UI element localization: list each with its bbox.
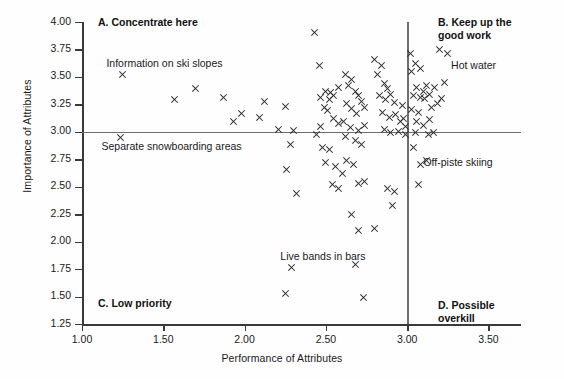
data-point-marker: [390, 187, 399, 196]
y-tick: 3.75: [75, 49, 82, 50]
data-point-marker: [338, 169, 347, 178]
data-point-marker: [421, 94, 430, 103]
data-point-marker: [440, 78, 449, 87]
data-point-marker: [409, 143, 418, 152]
data-point-marker: [346, 123, 355, 132]
data-point-marker: [409, 91, 418, 100]
data-point-marker: [282, 165, 291, 174]
data-point-marker: [191, 84, 200, 93]
data-point-marker: [377, 61, 386, 70]
y-tick: 3.00: [75, 132, 82, 133]
data-point-marker: [341, 70, 350, 79]
data-point-marker: [281, 102, 290, 111]
y-tick-label: 1.75: [51, 262, 71, 274]
data-point-marker: [339, 117, 348, 126]
data-point-marker: [352, 109, 361, 118]
data-point-marker: [354, 91, 363, 100]
data-point-marker: [401, 122, 410, 131]
data-point-marker: [343, 156, 352, 165]
data-point-marker: [373, 70, 382, 79]
data-point-marker: [118, 70, 127, 79]
y-tick-label: 2.25: [51, 207, 71, 219]
data-point-marker: [390, 98, 399, 107]
data-point-marker: [383, 184, 392, 193]
data-point-marker: [370, 55, 379, 64]
data-point-marker: [391, 110, 400, 119]
data-point-marker: [229, 117, 238, 126]
data-point-marker: [347, 210, 356, 219]
y-tick: 2.75: [75, 159, 82, 160]
data-point-marker: [320, 103, 329, 112]
data-point-marker: [416, 93, 425, 102]
y-tick-label: 2.00: [51, 234, 71, 246]
y-tick: 3.25: [75, 104, 82, 105]
data-point-marker: [219, 93, 228, 102]
data-point-marker: [419, 121, 428, 130]
data-point-marker: [321, 87, 330, 96]
data-point-marker: [330, 91, 339, 100]
x-tick-label: 3.00: [397, 333, 417, 345]
data-point-marker: [351, 87, 360, 96]
data-point-marker: [419, 87, 428, 96]
y-tick: 1.50: [75, 297, 82, 298]
data-point-marker: [408, 67, 417, 76]
y-tick: 4.00: [75, 22, 82, 23]
y-tick-label: 4.00: [51, 15, 71, 27]
x-tick-label: 1.00: [72, 333, 92, 345]
data-point-marker: [354, 226, 363, 235]
horizontal-divider-line: [82, 132, 521, 134]
data-point-marker: [260, 97, 269, 106]
data-point-marker: [360, 121, 369, 130]
data-point-marker: [315, 61, 324, 70]
data-point-marker: [326, 88, 335, 97]
data-point-marker: [437, 94, 446, 103]
data-point-marker: [317, 122, 326, 131]
data-point-marker: [412, 83, 421, 92]
y-tick-label: 2.75: [51, 152, 71, 164]
x-tick-label: 3.50: [478, 333, 498, 345]
annotation-label: Hot water: [451, 59, 496, 71]
data-point-marker: [414, 180, 423, 189]
data-point-marker: [347, 75, 356, 84]
data-point-marker: [425, 115, 434, 124]
data-point-marker: [388, 201, 397, 210]
quadrant-label-c: C. Low priority: [98, 297, 172, 310]
data-point-marker: [347, 104, 356, 113]
data-point-marker: [412, 117, 421, 126]
data-point-marker: [411, 59, 420, 68]
data-point-marker: [385, 113, 394, 122]
data-point-marker: [357, 97, 366, 106]
data-point-marker: [414, 108, 423, 117]
data-point-marker: [360, 177, 369, 186]
y-tick: 3.50: [75, 77, 82, 78]
data-point-marker: [310, 28, 319, 37]
data-point-marker: [344, 81, 353, 90]
x-tick: [488, 324, 489, 331]
data-point-marker: [334, 184, 343, 193]
y-tick: 1.75: [75, 269, 82, 270]
data-point-marker: [334, 83, 343, 92]
data-point-marker: [170, 95, 179, 104]
y-axis-line: [82, 22, 84, 324]
data-point-marker: [359, 293, 368, 302]
annotation-label: Information on ski slopes: [106, 57, 222, 69]
data-point-marker: [328, 180, 337, 189]
data-point-marker: [323, 106, 332, 115]
data-point-marker: [427, 103, 436, 112]
data-point-marker: [386, 90, 395, 99]
data-point-marker: [416, 64, 425, 73]
data-point-marker: [286, 140, 295, 149]
data-point-marker: [287, 263, 296, 272]
annotation-label: Separate snowboarding areas: [102, 140, 242, 152]
data-point-marker: [331, 162, 340, 171]
data-point-marker: [351, 136, 360, 145]
x-axis-line: [82, 324, 521, 326]
y-tick-label: 1.50: [51, 289, 71, 301]
data-point-marker: [380, 79, 389, 88]
data-point-marker: [378, 108, 387, 117]
data-point-marker: [354, 179, 363, 188]
data-point-marker: [237, 109, 246, 118]
annotation-label: Off-piste skiing: [423, 156, 492, 168]
x-axis-title: Performance of Attributes: [0, 352, 564, 364]
quadrant-label-a: A. Concentrate here: [98, 16, 198, 29]
